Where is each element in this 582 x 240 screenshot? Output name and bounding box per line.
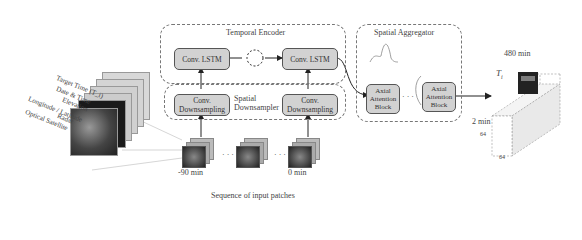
- conv-lstm-label: Conv. LSTM: [182, 55, 222, 64]
- conv-lstm-label: Conv. LSTM: [290, 55, 330, 64]
- patch-cube-first: [182, 138, 216, 166]
- conv-lstm-block-2: Conv. LSTM: [282, 48, 338, 70]
- output-time-near: 2 min: [472, 117, 490, 126]
- axial-attention-block-1: Axial Attention Block: [366, 84, 400, 114]
- output-time-far: 480 min: [504, 49, 530, 58]
- conv-downsampling-block-1: Conv. Downsampling: [174, 94, 230, 116]
- axial-attention-block-2: Axial Attention Block: [422, 82, 456, 112]
- spatial-downsampler-title: Spatial Downsampler: [234, 94, 279, 112]
- output-dim-width: 64: [499, 154, 505, 160]
- conv-downsampling-block-2: Conv. Downsampling: [282, 94, 338, 116]
- temporal-encoder-title: Temporal Encoder: [226, 28, 285, 37]
- output-dim-height: 64: [480, 131, 486, 137]
- aggregator-ellipsis: · · ·: [402, 92, 414, 101]
- patch-time-last: 0 min: [288, 168, 306, 177]
- patch-time-first: -90 min: [178, 168, 203, 177]
- patch-cube-last: [288, 138, 322, 166]
- spatial-aggregator-title: Spatial Aggregator: [374, 28, 434, 37]
- output-target-time-label: Ti: [496, 68, 503, 80]
- patch-cube-middle: [236, 138, 270, 166]
- patch-ellipsis-1: · · ·: [222, 150, 234, 159]
- conv-lstm-block-1: Conv. LSTM: [174, 48, 230, 70]
- patch-ellipsis-2: · · ·: [274, 150, 286, 159]
- patch-sequence-caption: Sequence of input patches: [211, 191, 295, 200]
